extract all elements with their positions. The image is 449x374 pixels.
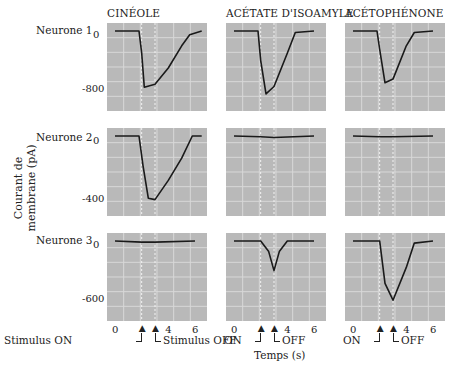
chart-panel <box>226 233 326 321</box>
stimulus-on-arrow-icon: ▲ <box>258 323 265 333</box>
y-tick-r1-top: 0 <box>93 29 99 40</box>
y-tick-r3-top: 0 <box>93 239 99 250</box>
stimulus-on-label: Stimulus ON <box>4 334 72 346</box>
stimulus-on-arrow-icon: ▲ <box>377 323 384 333</box>
off-label: OFF <box>282 334 305 346</box>
y-tick-r3-bottom: -600 <box>82 293 104 304</box>
arrow-tail <box>155 341 161 342</box>
arrow-tail <box>374 341 380 342</box>
y-tick-r2-top: 0 <box>93 135 99 146</box>
stimulus-on-arrow-icon: ▲ <box>139 323 146 333</box>
row-label-neuron-3: Neurone 3 <box>36 234 93 246</box>
chart-panel <box>345 233 445 321</box>
arrow-tail <box>255 341 261 342</box>
on-label: ON <box>224 334 242 346</box>
chart-panel <box>226 128 326 216</box>
chart-panel <box>107 23 207 111</box>
x-axis-label: Temps (s) <box>254 349 305 361</box>
stimulus-off-arrow-icon: ▲ <box>271 323 278 333</box>
x-tick-0: 0 <box>112 324 118 335</box>
arrow-tail <box>393 341 399 342</box>
column-title-acetophenone: ACÉTOPHÉNONE <box>345 7 444 19</box>
arrow-tail <box>136 341 142 342</box>
x-tick-6: 6 <box>311 324 317 335</box>
chart-panel <box>107 128 207 216</box>
chart-panel <box>345 23 445 111</box>
x-tick-6: 6 <box>430 324 436 335</box>
chart-panel <box>107 233 207 321</box>
y-axis-label: Courant de membrane (pA) <box>12 133 38 243</box>
row-label-neuron-1: Neurone 1 <box>36 24 93 36</box>
stimulus-off-arrow-icon: ▲ <box>390 323 397 333</box>
y-axis-label-line1: Courant de <box>12 133 25 243</box>
column-title-cineole: CINÉOLE <box>107 7 160 19</box>
chart-panel <box>345 128 445 216</box>
y-tick-r1-bottom: -800 <box>82 83 104 94</box>
row-label-neuron-2: Neurone 2 <box>36 131 93 143</box>
column-title-isoamyl-acetate: ACÉTATE D'ISOAMYLE <box>226 7 354 19</box>
arrow-tail <box>274 341 280 342</box>
on-label: ON <box>343 334 361 346</box>
off-label: OFF <box>401 334 424 346</box>
y-tick-r2-bottom: -400 <box>82 193 104 204</box>
stimulus-off-arrow-icon: ▲ <box>152 323 159 333</box>
chart-panel <box>226 23 326 111</box>
y-axis-label-line2: membrane (pA) <box>25 133 38 243</box>
